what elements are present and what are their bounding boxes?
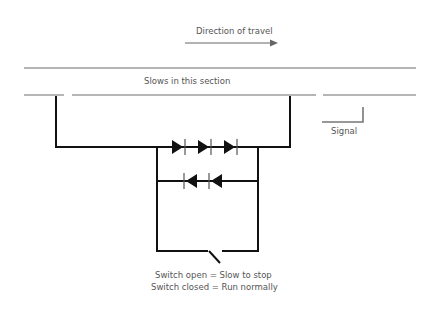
signal-icon [322,107,363,122]
circuit-diagram [0,0,438,330]
switch-closed-label: Switch closed = Run normally [151,282,278,292]
forward-diodes [172,139,237,155]
direction-arrow-icon [185,40,278,47]
wiring [56,96,290,263]
signal-label: Signal [331,126,357,136]
direction-label: Direction of travel [196,26,273,36]
section-label: Slows in this section [144,76,230,86]
switch-open-label: Switch open = Slow to stop [155,270,272,280]
switch-blade [209,251,220,263]
